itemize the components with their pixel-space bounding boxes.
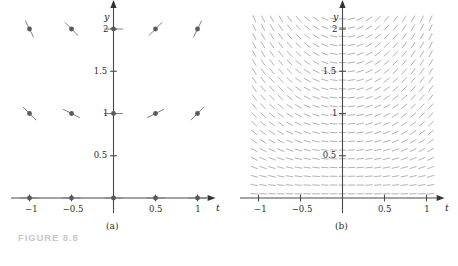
direction-field-segment [374,105,381,108]
direction-field-segment [295,104,302,108]
direction-field-segment [365,105,372,107]
direction-field-segment [321,105,328,107]
direction-field-segment [365,132,372,134]
direction-field-segment [401,95,407,100]
direction-field-segment [260,166,267,168]
direction-field-segment [357,17,364,20]
figure-caption: FIGURE 8.8 [18,232,79,243]
direction-field-segment [410,139,417,143]
direction-field-segment [261,51,265,57]
direction-field-segment [384,69,390,74]
direction-field-segment [304,69,310,73]
direction-field-segment [384,16,389,22]
direction-field-segment [402,51,407,57]
direction-field-segment [252,68,256,74]
direction-field-segment [278,113,284,117]
direction-field-segment [277,158,284,160]
sample-point-dot [195,27,200,32]
direction-field-segment [428,130,434,135]
direction-field-segment [428,121,434,126]
direction-field-segment [251,184,258,185]
direction-field-segment [312,158,319,159]
direction-field-segment [304,114,311,117]
direction-field-segment [287,51,292,57]
panel-a-y-axis-arrowhead [110,0,116,8]
panel-b-caption: (b) [335,222,348,231]
direction-field-segment [409,185,416,186]
direction-field-segment [304,34,310,39]
direction-field-segment [429,33,432,40]
direction-field-segment [304,87,311,91]
direction-field-segment [392,176,399,177]
direction-field-segment [304,52,310,56]
direction-field-segment [393,16,397,22]
direction-field-segment [420,16,423,23]
direction-field-segment [410,157,417,160]
direction-field-segment [348,71,355,72]
direction-field-segment [393,78,399,83]
direction-field-segment [261,16,264,23]
panel-b-x-tick-label: 0.5 [378,205,392,214]
direction-field-segment [295,140,302,143]
direction-field-segment [287,69,292,74]
direction-field-segment [287,78,293,83]
direction-field-segment [365,149,372,150]
direction-field-segment [251,130,257,135]
direction-field-segment [366,79,373,82]
direction-field-segment [260,130,266,134]
direction-field-segment [357,35,364,38]
direction-field-segment [304,167,311,168]
direction-field-segment [420,77,425,83]
panel-b-y-tick-label: 0.5 [323,151,337,160]
direction-field-segment [321,88,328,90]
direction-field-segment [401,104,407,109]
direction-field-segment [410,95,415,100]
direction-field-segment [304,105,311,108]
direction-field-segment [411,51,415,57]
direction-field-segment [312,167,319,168]
direction-field-segment [278,104,284,109]
direction-field-segment [330,80,337,81]
direction-field-segment [313,34,319,38]
direction-field-segment [348,132,355,133]
direction-field-segment [419,121,425,126]
direction-field-segment [252,86,256,92]
direction-field-segment [357,88,364,90]
direction-field-segment [286,140,293,143]
direction-field-segment [269,86,274,92]
direction-field-segment [286,104,292,108]
direction-field-segment [260,148,267,152]
direction-field-segment [287,16,291,22]
direction-field-segment [270,51,274,57]
direction-field-segment [384,43,389,48]
direction-field-segment [429,77,433,83]
direction-field-segment [357,61,364,63]
direction-field-segment [418,157,425,160]
sample-point-dot [153,111,158,116]
sample-point-dot [111,196,116,201]
direction-field-segment [392,122,399,126]
direction-field-segment [269,122,275,126]
direction-field-segment [313,79,320,82]
direction-field-segment [429,51,433,58]
direction-field-segment [356,167,363,168]
direction-field-segment [296,25,301,30]
direction-field-segment [383,158,390,160]
direction-field-segment [401,149,408,152]
direction-field-segment [330,53,337,54]
direction-field-segment [393,69,398,74]
direction-field-segment [428,95,433,101]
sample-point-dot [69,196,74,201]
direction-field-segment [375,69,381,73]
direction-field-segment [411,33,415,39]
direction-field-segment [348,36,355,37]
direction-field-segment [428,103,433,109]
direction-field-segment [278,86,283,91]
direction-field-segment [321,61,328,63]
direction-field-segment [428,139,434,143]
direction-field-segment [261,24,264,31]
direction-field-segment [287,86,293,91]
direction-field-segment [321,114,328,116]
panel-b-t-axis-arrowhead [437,195,445,201]
direction-field-segment [427,166,434,169]
